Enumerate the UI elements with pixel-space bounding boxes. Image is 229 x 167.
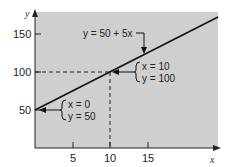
point-b-x-label: x = 10: [142, 61, 170, 72]
x-tick-label-15: 15: [142, 152, 154, 164]
point-a-x-label: x = 0: [68, 99, 90, 110]
y-axis-label: y: [24, 8, 30, 19]
x-tick-label-10: 10: [104, 152, 116, 164]
x-axis-label: x: [209, 154, 215, 165]
y-tick-label-100: 100: [13, 66, 31, 78]
y-tick-label-150: 150: [13, 28, 31, 40]
y-tick-label-50: 50: [19, 104, 31, 116]
point-a-y-label: y = 50: [68, 111, 96, 122]
x-tick-label-5: 5: [70, 152, 76, 164]
equation-label: y = 50 + 5x: [83, 28, 132, 39]
point-b-y-label: y = 100: [142, 73, 176, 84]
chart: y x 150 100 50 5 10 15 y = 50 + 5x x = 1…: [0, 0, 229, 167]
